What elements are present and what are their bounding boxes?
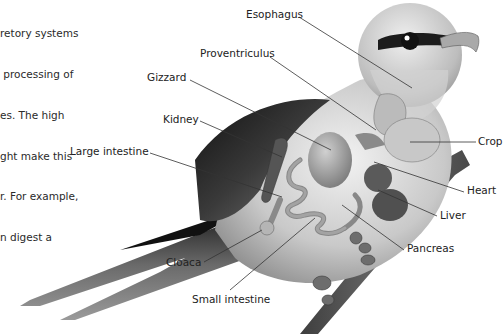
label-small-intestine: Small intestine: [192, 293, 270, 305]
intro-line: retory systems: [0, 27, 120, 41]
label-heart: Heart: [467, 184, 496, 196]
label-pancreas: Pancreas: [407, 242, 454, 254]
intro-line: processing of: [0, 68, 120, 82]
label-crop: Crop: [478, 135, 503, 147]
intro-line: r. For example,: [0, 190, 120, 204]
label-gizzard: Gizzard: [147, 71, 186, 83]
label-liver: Liver: [440, 209, 466, 221]
intro-line: es. The high: [0, 109, 120, 123]
label-esophagus: Esophagus: [246, 8, 303, 20]
label-proventriculus: Proventriculus: [200, 47, 275, 59]
label-large-intestine: Large intestine: [70, 145, 149, 157]
intro-paragraph-fragment: retory systems processing of es. The hig…: [0, 0, 120, 272]
label-kidney: Kidney: [163, 113, 199, 125]
intro-line: n digest a: [0, 231, 120, 245]
label-cloaca: Cloaca: [166, 256, 201, 268]
diagram-canvas: retory systems processing of es. The hig…: [0, 0, 503, 334]
